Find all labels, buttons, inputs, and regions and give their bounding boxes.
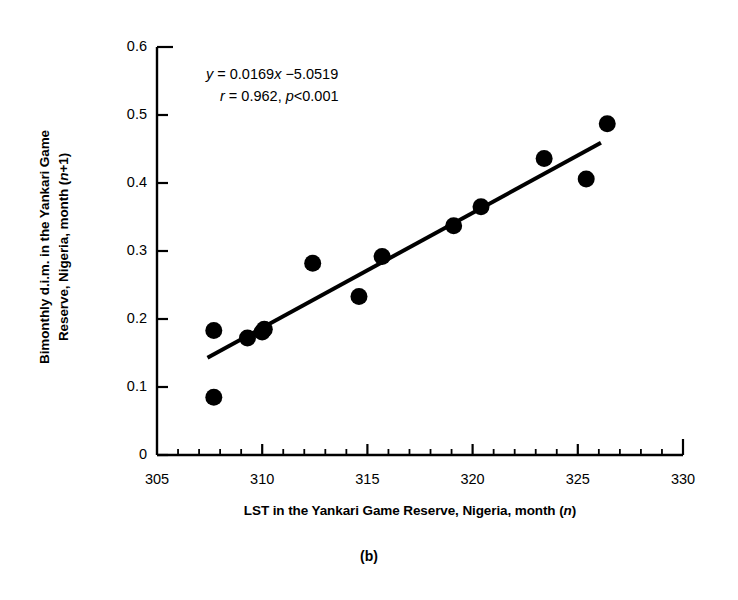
data-point — [205, 322, 222, 339]
data-point — [205, 389, 222, 406]
y-tick-label: 0.1 — [101, 379, 147, 394]
data-points-layer — [205, 115, 615, 405]
data-point — [536, 150, 553, 167]
x-axis-title-prefix: LST in the Yankari Game Reserve, Nigeria… — [244, 503, 564, 518]
x-tick-label: 305 — [127, 472, 187, 487]
data-point — [239, 330, 256, 347]
data-point — [473, 198, 490, 215]
x-axis-title-suffix: ) — [572, 503, 576, 518]
equation-tail: −5.0519 — [281, 66, 338, 82]
data-point — [445, 217, 462, 234]
equation-mid: = 0.0169 — [213, 66, 274, 82]
y-axis-title-line-1: Bimonthly d.i.m. in the Yankari Game — [35, 37, 54, 457]
figure-caption: (b) — [0, 548, 738, 564]
y-axis-title-line-2-italic: n — [56, 173, 71, 181]
stats-p-symbol: p — [286, 88, 294, 104]
stats-p-value: <0.001 — [294, 88, 339, 104]
axes-layer — [157, 47, 683, 455]
y-tick-label: 0.2 — [101, 311, 147, 326]
y-tick-label: 0.6 — [101, 39, 147, 54]
data-point — [350, 288, 367, 305]
data-point — [256, 321, 273, 338]
y-axis-title: Bimonthly d.i.m. in the Yankari Game Res… — [35, 37, 73, 457]
y-axis-title-line-2: Reserve, Nigeria, month (n+1) — [54, 37, 73, 457]
figure-panel: Bimonthly d.i.m. in the Yankari Game Res… — [0, 0, 738, 600]
x-tick-label: 310 — [232, 472, 292, 487]
fit-stats: r = 0.962, p<0.001 — [206, 85, 339, 107]
fit-equation: y = 0.0169x −5.0519 — [206, 63, 339, 85]
x-tick-label: 315 — [337, 472, 397, 487]
x-tick-label: 325 — [548, 472, 608, 487]
x-axis-title: LST in the Yankari Game Reserve, Nigeria… — [120, 503, 700, 518]
x-tick-label: 330 — [653, 472, 713, 487]
data-point — [599, 115, 616, 132]
y-tick-label: 0.3 — [101, 243, 147, 258]
y-axis-title-line-2-prefix: Reserve, Nigeria, month ( — [56, 181, 71, 341]
y-tick-label: 0.4 — [101, 175, 147, 190]
y-axis-title-line-2-suffix: +1) — [56, 153, 71, 173]
y-tick-label: 0 — [101, 447, 147, 462]
y-tick-label: 0.5 — [101, 107, 147, 122]
x-tick-label: 320 — [443, 472, 503, 487]
fit-annotation: y = 0.0169x −5.0519 r = 0.962, p<0.001 — [206, 63, 339, 107]
x-axis-title-italic: n — [564, 503, 572, 518]
data-point — [374, 248, 391, 265]
stats-r-value: = 0.962, — [225, 88, 286, 104]
data-point — [304, 255, 321, 272]
data-point — [578, 170, 595, 187]
